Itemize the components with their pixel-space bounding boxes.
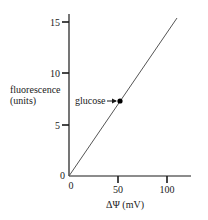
- glucose-point: [117, 98, 122, 103]
- y-tick-label-10: 10: [50, 68, 60, 79]
- y-axis-label-line1: fluorescence: [10, 84, 61, 95]
- y-tick-label-5: 5: [55, 120, 60, 131]
- y-tick-label-15: 15: [50, 17, 60, 28]
- y-tick-label-0: 0: [60, 170, 65, 181]
- x-axis-label: ΔΨ (mV): [106, 199, 144, 211]
- glucose-label: glucose: [75, 95, 106, 106]
- chart: 15 10 5 0 0 50 100 fluorescence (units) …: [0, 0, 208, 220]
- x-tick-label-0: 0: [69, 180, 74, 191]
- y-axis-label-line2: (units): [10, 95, 36, 107]
- x-tick-label-100: 100: [160, 184, 175, 195]
- x-tick-label-50: 50: [113, 184, 123, 195]
- arrowhead-icon: [112, 99, 117, 104]
